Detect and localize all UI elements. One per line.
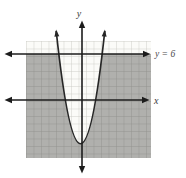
x-axis-left-arrowhead-icon (5, 97, 13, 103)
y-axis-top-arrowhead-icon (79, 21, 85, 29)
line-y6-left-arrowhead-icon (5, 51, 13, 57)
parabola-right-arrowhead-icon (102, 30, 107, 37)
y-axis-label: y (76, 8, 82, 19)
figure-canvas: y x y = 6 (0, 0, 186, 178)
y-axis-bottom-arrowhead-icon (79, 166, 85, 174)
line-y6-label: y = 6 (154, 49, 175, 59)
x-axis-label: x (153, 95, 159, 106)
parabola-left-arrowhead-icon (54, 30, 59, 37)
math-figure: y x y = 6 (0, 0, 186, 178)
